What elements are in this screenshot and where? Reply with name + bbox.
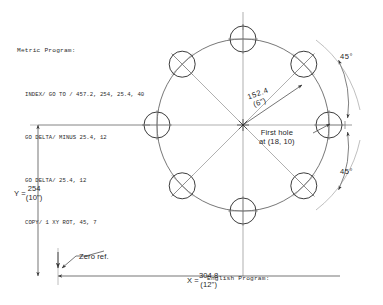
first-hole-label-line-1: First hole (261, 128, 293, 137)
y-dimension-label: Y = 254 (10") (14, 185, 42, 202)
x-dimension-english: (12") (199, 281, 219, 290)
metric-program-block: Metric Program: INDEX/ GO TO / 457.2, 25… (17, 11, 144, 263)
first-hole-label-line-2: at (18, 10) (259, 137, 295, 146)
angle-arc-top (339, 60, 349, 118)
angle-arc-outer-top (316, 40, 360, 110)
hole-0deg (314, 110, 344, 140)
hole-270deg (228, 196, 258, 226)
english-program-block: English Program: INDEX/ GO TO / 18, 10, … (207, 239, 310, 305)
hole-225deg (169, 173, 195, 199)
first-hole-label: First hole at (18, 10) (259, 128, 295, 146)
x-dimension-tag: X = (187, 276, 199, 285)
metric-program-title: Metric Program: (17, 47, 144, 54)
y-dimension-english: (10") (26, 194, 43, 203)
angle-label-bottom: 45° (340, 167, 353, 176)
metric-program-line-2: GO DELTA/ MINUS 25.4, 12 (17, 135, 144, 142)
angle-arc-bottom (339, 132, 349, 190)
english-program-title: English Program: (207, 275, 310, 282)
angle-extension-ticks (344, 121, 352, 129)
hole-315deg (291, 173, 317, 199)
x-dimension-label: X = 304.8 (12") (187, 272, 218, 289)
zero-ref-label: Zero ref. (79, 252, 109, 261)
hole-45deg (291, 51, 317, 77)
y-dimension-tag: Y = (14, 189, 26, 198)
metric-program-line-4: COPY/ 1 XY ROT, 45, 7 (17, 220, 144, 227)
angle-arc-outer-bottom (316, 140, 360, 210)
angle-label-top: 45° (340, 52, 353, 61)
hole-135deg (169, 51, 195, 77)
metric-program-line-1: INDEX/ GO TO / 457.2, 254, 25.4, 40 (17, 92, 144, 99)
hole-90deg (228, 24, 258, 54)
drawing-canvas: Metric Program: INDEX/ GO TO / 457.2, 25… (0, 0, 383, 305)
